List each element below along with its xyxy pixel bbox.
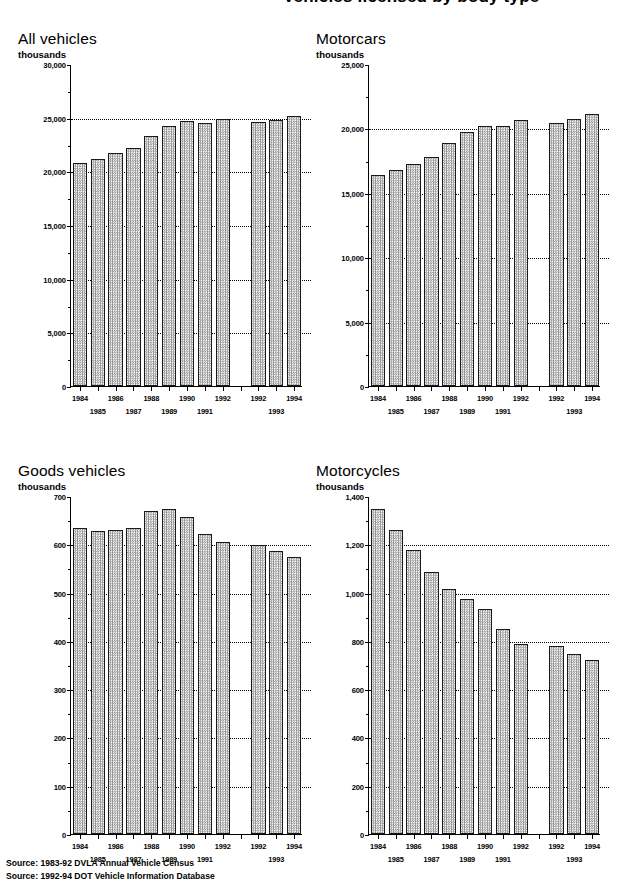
x-axis-tick <box>80 386 81 391</box>
y-axis-minor-tick <box>366 763 369 764</box>
x-axis-tick-label: 1987 <box>424 855 440 864</box>
chart-panel-motorcycles: Motorcycles thousands 02004006008001,000… <box>316 462 612 853</box>
bar <box>144 511 158 835</box>
x-axis-tick <box>187 386 188 391</box>
bar <box>514 120 528 386</box>
bar <box>371 509 385 834</box>
bar <box>269 120 283 386</box>
x-axis-tick-label: 1986 <box>108 394 124 403</box>
x-axis-tick-label: 1992 <box>250 394 266 403</box>
y-axis-tick-label: 300 <box>54 686 66 695</box>
x-axis-tick <box>396 386 397 391</box>
y-axis-tick-label: 15,000 <box>43 222 66 231</box>
x-axis-tick <box>503 386 504 391</box>
bar <box>424 157 438 386</box>
plot-area: 0100200300400500600700198419851986198719… <box>18 493 310 853</box>
bar <box>126 148 140 386</box>
x-axis-tick-label: 1994 <box>286 842 302 851</box>
bar <box>567 654 581 834</box>
x-axis-tick-label: 1986 <box>406 394 422 403</box>
y-axis-minor-tick <box>366 226 369 227</box>
x-axis-tick <box>574 386 575 391</box>
plot-area: 02004006008001,0001,2001,400198419851986… <box>316 493 612 853</box>
y-axis-tick-label: 600 <box>352 686 364 695</box>
x-axis-tick-label: 1990 <box>179 842 195 851</box>
x-axis-tick-label: 1986 <box>108 842 124 851</box>
x-axis-tick-label: 1989 <box>459 407 475 416</box>
bar <box>478 126 492 386</box>
x-axis-tick-label: 1984 <box>370 842 386 851</box>
y-axis-tick-label: 30,000 <box>43 61 66 70</box>
y-axis-tick-label: 0 <box>360 831 364 840</box>
y-axis-minor-tick <box>68 618 71 619</box>
y-axis-tick-label: 25,000 <box>43 114 66 123</box>
x-axis-tick-label: 1990 <box>477 842 493 851</box>
chart-title: Motorcycles <box>316 462 612 480</box>
x-axis-tick <box>503 834 504 839</box>
y-axis-minor-tick <box>68 666 71 667</box>
y-axis-minor-tick <box>366 666 369 667</box>
x-axis-tick <box>414 386 415 391</box>
y-axis-tick-label: 500 <box>54 589 66 598</box>
x-axis-tick <box>205 834 206 839</box>
x-axis-tick-label: 1988 <box>441 842 457 851</box>
y-axis-minor-tick <box>68 253 71 254</box>
y-axis-tick <box>67 497 72 498</box>
y-axis-minor-tick <box>366 162 369 163</box>
x-axis-tick-label: 1990 <box>477 394 493 403</box>
x-axis-tick <box>449 386 450 391</box>
x-axis-tick <box>485 386 486 391</box>
x-axis-tick <box>521 834 522 839</box>
y-axis-tick <box>365 387 370 388</box>
x-axis-tick <box>116 386 117 391</box>
y-axis-minor-tick <box>68 360 71 361</box>
x-axis-tick <box>98 386 99 391</box>
x-axis-tick-label: 1985 <box>90 407 106 416</box>
y-axis-minor-tick <box>366 811 369 812</box>
x-axis-tick <box>414 834 415 839</box>
bar <box>567 119 581 386</box>
y-axis-tick-label: 10,000 <box>341 254 364 263</box>
x-axis-tick <box>276 834 277 839</box>
x-axis-tick <box>467 386 468 391</box>
y-axis-minor-tick <box>68 569 71 570</box>
x-axis-tick-label: 1989 <box>161 407 177 416</box>
x-axis-tick <box>539 386 540 391</box>
bar <box>180 517 194 834</box>
bar <box>144 136 158 386</box>
x-axis-tick <box>223 834 224 839</box>
x-axis-tick <box>116 834 117 839</box>
x-axis-tick <box>169 386 170 391</box>
x-axis-tick-label: 1994 <box>286 394 302 403</box>
x-axis-tick <box>151 834 152 839</box>
y-axis-tick-label: 20,000 <box>341 125 364 134</box>
x-axis-tick <box>187 834 188 839</box>
plot-canvas: 02004006008001,0001,2001,400198419851986… <box>368 497 600 835</box>
plot-area: 05,00010,00015,00020,00025,0001984198519… <box>316 61 612 401</box>
plot-canvas: 0100200300400500600700198419851986198719… <box>70 497 302 835</box>
x-axis-tick <box>521 386 522 391</box>
bar <box>216 542 230 834</box>
bar <box>180 121 194 386</box>
y-axis-minor-tick <box>68 714 71 715</box>
y-axis-tick <box>67 387 72 388</box>
plot-canvas: 05,00010,00015,00020,00025,00030,0001984… <box>70 65 302 387</box>
y-axis-minor-tick <box>366 618 369 619</box>
x-axis-tick <box>258 834 259 839</box>
plot-canvas: 05,00010,00015,00020,00025,0001984198519… <box>368 65 600 387</box>
x-axis-tick <box>574 834 575 839</box>
bar <box>585 660 599 834</box>
x-axis-tick <box>133 386 134 391</box>
x-axis-tick <box>276 386 277 391</box>
x-axis-tick-label: 1993 <box>268 407 284 416</box>
x-axis-tick-label: 1993 <box>268 855 284 864</box>
bar <box>442 143 456 386</box>
y-axis-minor-tick <box>68 307 71 308</box>
y-axis-minor-tick <box>366 714 369 715</box>
y-axis-tick <box>67 65 72 66</box>
x-axis-tick <box>431 834 432 839</box>
x-axis-tick-label: 1988 <box>143 394 159 403</box>
x-axis-tick-label: 1989 <box>459 855 475 864</box>
x-axis-tick <box>169 834 170 839</box>
y-axis-minor-tick <box>366 290 369 291</box>
